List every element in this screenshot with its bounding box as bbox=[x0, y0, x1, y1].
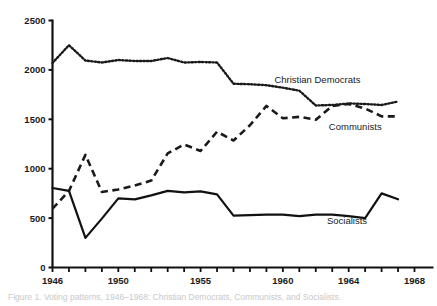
series-label-communists: Communists bbox=[329, 121, 382, 132]
figure-caption: Figure 1. Voting patterns, 1946–1968: Ch… bbox=[8, 292, 433, 303]
chart-figure: 0500100015002000250019461950195519601964… bbox=[0, 0, 437, 306]
y-axis-tick-label: 2000 bbox=[24, 64, 45, 75]
y-axis-tick-label: 1500 bbox=[24, 114, 45, 125]
y-axis-tick-label: 500 bbox=[30, 213, 46, 224]
y-axis-tick-label: 1000 bbox=[24, 163, 45, 174]
x-axis-tick-label: 1960 bbox=[272, 275, 293, 286]
series-label-christian-democrats: Christian Democrats bbox=[274, 74, 360, 85]
series-label-socialists: Socialists bbox=[327, 215, 367, 226]
x-axis-tick-label: 1968 bbox=[404, 275, 425, 286]
x-axis-tick-label: 1964 bbox=[338, 275, 360, 286]
series-line-communists bbox=[53, 104, 399, 209]
y-axis-tick-label: 2500 bbox=[24, 15, 45, 26]
x-axis-tick-label: 1946 bbox=[42, 275, 63, 286]
series-line-socialists bbox=[53, 188, 399, 238]
line-chart-canvas: 0500100015002000250019461950195519601964… bbox=[0, 0, 437, 306]
x-axis-tick-label: 1950 bbox=[108, 275, 129, 286]
y-axis-tick-label: 0 bbox=[40, 262, 45, 273]
x-axis-tick-label: 1955 bbox=[190, 275, 212, 286]
